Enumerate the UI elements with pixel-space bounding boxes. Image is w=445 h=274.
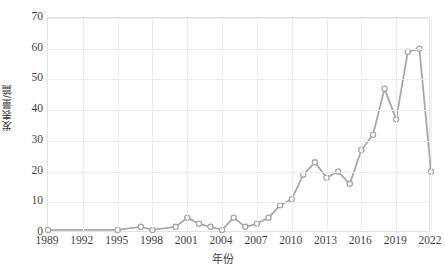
data-point-marker[interactable] bbox=[196, 221, 201, 226]
data-point-marker[interactable] bbox=[208, 224, 213, 229]
x-tick-label: 2010 bbox=[279, 234, 302, 247]
gridline-horizontal bbox=[48, 110, 429, 111]
y-tick-label: 70 bbox=[3, 11, 43, 23]
gridline-vertical bbox=[327, 18, 328, 231]
gridline-vertical bbox=[118, 18, 119, 231]
series-line-publications bbox=[48, 18, 431, 233]
data-point-marker[interactable] bbox=[266, 215, 271, 220]
data-point-marker[interactable] bbox=[45, 227, 50, 232]
x-tick-label: 1989 bbox=[36, 234, 59, 247]
gridline-vertical bbox=[152, 18, 153, 231]
gridline-horizontal bbox=[48, 172, 429, 173]
x-tick-label: 1992 bbox=[70, 234, 93, 247]
gridline-vertical bbox=[187, 18, 188, 231]
gridline-horizontal bbox=[48, 202, 429, 203]
gridline-vertical bbox=[83, 18, 84, 231]
y-tick-label: 20 bbox=[3, 165, 43, 177]
data-point-marker[interactable] bbox=[382, 86, 387, 91]
gridline-vertical bbox=[361, 18, 362, 231]
x-tick-label: 2013 bbox=[314, 234, 337, 247]
gridline-horizontal bbox=[48, 141, 429, 142]
y-tick-label: 10 bbox=[3, 195, 43, 207]
data-point-marker[interactable] bbox=[278, 203, 283, 208]
gridline-vertical bbox=[396, 18, 397, 231]
x-tick-label: 1995 bbox=[105, 234, 128, 247]
gridline-vertical bbox=[431, 18, 432, 231]
plot-area bbox=[47, 17, 430, 232]
x-tick-label: 2016 bbox=[349, 234, 372, 247]
gridline-vertical bbox=[292, 18, 293, 231]
gridline-horizontal bbox=[48, 49, 429, 50]
publication-trend-chart: 发表量/篇 010203040506070 198919921995199820… bbox=[0, 0, 445, 274]
gridline-horizontal bbox=[48, 79, 429, 80]
x-tick-label: 2022 bbox=[419, 234, 442, 247]
data-point-marker[interactable] bbox=[173, 224, 178, 229]
y-tick-label: 30 bbox=[3, 134, 43, 146]
data-point-marker[interactable] bbox=[231, 215, 236, 220]
x-tick-label: 2019 bbox=[384, 234, 407, 247]
x-axis-tick-labels: 1989199219951998200120042007201020132016… bbox=[47, 234, 430, 250]
x-tick-label: 1998 bbox=[140, 234, 163, 247]
gridline-vertical bbox=[222, 18, 223, 231]
y-axis-tick-labels: 010203040506070 bbox=[0, 17, 43, 232]
data-point-marker[interactable] bbox=[312, 160, 317, 165]
y-tick-label: 40 bbox=[3, 103, 43, 115]
y-tick-label: 60 bbox=[3, 42, 43, 54]
x-tick-label: 2001 bbox=[175, 234, 198, 247]
x-tick-label: 2007 bbox=[244, 234, 267, 247]
x-axis-label: 年份 bbox=[0, 252, 445, 266]
gridline-vertical bbox=[257, 18, 258, 231]
data-point-marker[interactable] bbox=[347, 181, 352, 186]
x-tick-label: 2004 bbox=[210, 234, 233, 247]
data-point-marker[interactable] bbox=[370, 132, 375, 137]
y-tick-label: 50 bbox=[3, 72, 43, 84]
data-point-marker[interactable] bbox=[138, 224, 143, 229]
data-point-marker[interactable] bbox=[243, 224, 248, 229]
data-point-marker[interactable] bbox=[405, 49, 410, 54]
data-point-marker[interactable] bbox=[301, 172, 306, 177]
gridline-horizontal bbox=[48, 18, 429, 19]
